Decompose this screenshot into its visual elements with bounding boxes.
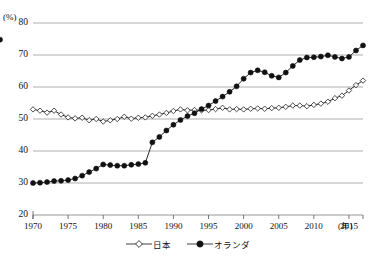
data-point — [122, 163, 127, 168]
data-point — [304, 104, 309, 109]
data-point — [269, 105, 274, 110]
data-point — [227, 107, 232, 112]
data-point — [108, 118, 113, 123]
data-point — [72, 116, 77, 121]
data-point — [129, 162, 134, 167]
data-point — [66, 178, 71, 183]
chart-legend: 日本 オランダ — [0, 238, 376, 250]
data-point — [150, 140, 155, 145]
data-point — [290, 103, 295, 108]
data-point — [38, 180, 43, 185]
plot-area — [0, 0, 376, 257]
data-point — [58, 112, 63, 117]
data-point — [87, 170, 92, 175]
data-point — [311, 55, 316, 60]
data-point — [115, 163, 120, 168]
data-point — [136, 115, 141, 120]
data-point — [360, 78, 365, 83]
series-japan — [30, 78, 365, 124]
legend-marker-filled-circle — [187, 239, 213, 249]
data-point — [80, 173, 85, 178]
data-point — [297, 58, 302, 63]
data-point — [73, 176, 78, 181]
data-point — [52, 179, 57, 184]
data-point — [108, 163, 113, 168]
data-point — [93, 116, 98, 121]
data-point — [213, 106, 218, 111]
data-point — [164, 128, 169, 133]
data-point — [276, 75, 281, 80]
data-point — [185, 114, 190, 119]
data-point — [234, 106, 239, 111]
data-point — [276, 105, 281, 110]
data-point — [283, 70, 288, 75]
data-point — [297, 103, 302, 108]
data-point — [51, 108, 56, 113]
data-point — [30, 107, 35, 112]
data-point — [157, 134, 162, 139]
data-point — [192, 111, 197, 116]
data-point — [255, 68, 260, 73]
data-point — [101, 162, 106, 167]
data-point — [241, 76, 246, 81]
data-point — [206, 103, 211, 108]
data-point — [220, 94, 225, 99]
legend-label-netherlands: オランダ — [214, 240, 250, 250]
data-point — [79, 115, 84, 120]
data-point — [45, 180, 50, 185]
data-point — [101, 119, 106, 124]
data-point — [361, 43, 366, 48]
legend-marker-open-diamond — [126, 239, 152, 249]
data-point — [0, 37, 3, 42]
data-point — [59, 178, 64, 183]
data-point — [220, 105, 225, 110]
data-point — [332, 54, 337, 59]
data-point — [346, 54, 351, 59]
data-point — [178, 107, 183, 112]
data-point — [304, 55, 309, 60]
data-point — [353, 48, 358, 53]
data-point — [150, 113, 155, 118]
data-point — [185, 108, 190, 113]
data-point — [136, 162, 141, 167]
data-point — [164, 110, 169, 115]
data-point — [157, 112, 162, 117]
data-point — [255, 106, 260, 111]
data-point — [339, 56, 344, 61]
data-point — [171, 122, 176, 127]
data-point — [94, 166, 99, 171]
data-point — [44, 110, 49, 115]
data-point — [283, 104, 288, 109]
data-point — [31, 181, 36, 186]
data-point — [269, 73, 274, 78]
data-point — [318, 101, 323, 106]
data-point — [37, 108, 42, 113]
data-point — [86, 118, 91, 123]
data-point — [262, 106, 267, 111]
data-point — [241, 107, 246, 112]
data-point — [311, 102, 316, 107]
data-point — [325, 99, 330, 104]
data-point — [178, 117, 183, 122]
data-point — [262, 70, 267, 75]
data-point — [248, 70, 253, 75]
data-point — [129, 116, 134, 121]
data-point — [213, 99, 218, 104]
data-point — [325, 53, 330, 58]
data-point — [318, 54, 323, 59]
data-point — [227, 89, 232, 94]
chart-container: (%) (年) 80706050403020 19701975198019851… — [0, 0, 376, 257]
data-point — [115, 116, 120, 121]
data-point — [234, 84, 239, 89]
data-point — [248, 106, 253, 111]
legend-item-netherlands: オランダ — [187, 238, 250, 250]
data-point — [290, 63, 295, 68]
series-line — [33, 45, 363, 183]
data-point — [171, 108, 176, 113]
data-point — [143, 160, 148, 165]
legend-item-japan: 日本 — [126, 238, 171, 250]
data-point — [332, 96, 337, 101]
legend-label-japan: 日本 — [153, 240, 171, 250]
data-point — [199, 107, 204, 112]
